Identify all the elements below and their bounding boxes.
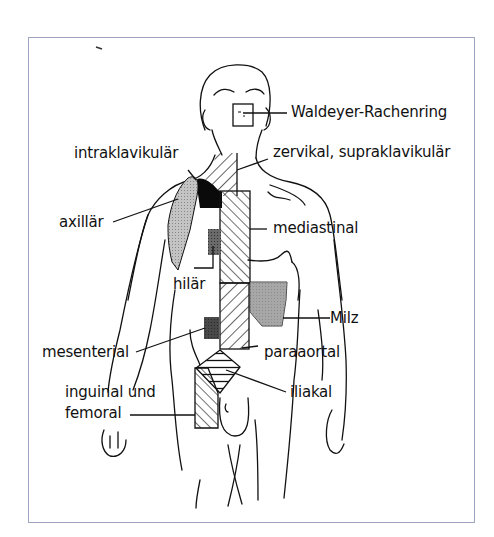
mediastinal-region <box>220 191 250 283</box>
paraaortal-region <box>220 283 249 349</box>
stray-mark <box>96 47 102 49</box>
waldeyer-region <box>233 104 253 126</box>
label-inguinal-line2: femoral <box>65 405 121 422</box>
label-mesenterial: mesenterial <box>42 344 129 361</box>
label-hilar: hilär <box>173 276 205 293</box>
label-zervikal: zervikal, supraklavikulär <box>273 144 450 161</box>
hilar-region <box>208 229 221 255</box>
label-paraaortal: paraaortal <box>264 344 340 361</box>
axillar-region <box>168 177 198 270</box>
label-axillar: axillär <box>59 214 104 231</box>
label-milz: Milz <box>330 310 358 327</box>
body-diagram <box>0 0 494 537</box>
label-intraklavikular: intraklavikulär <box>74 145 178 162</box>
label-waldeyer: Waldeyer-Rachenring <box>291 104 447 121</box>
label-inguinal-line1: inguinal und <box>65 384 156 401</box>
label-mediastinal: mediastinal <box>273 220 358 237</box>
label-iliakal: iliakal <box>290 384 332 401</box>
